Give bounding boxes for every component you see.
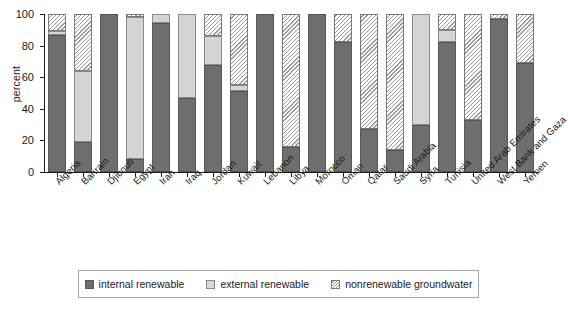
y-axis-tick-labels: 100806040200 <box>8 0 34 309</box>
nonrenewable-groundwater-segment[interactable] <box>516 14 535 63</box>
x-tick-mark <box>161 173 162 177</box>
bar-group[interactable] <box>282 14 301 172</box>
stacked-bar[interactable] <box>204 14 223 172</box>
internal-renewable-segment[interactable] <box>204 65 223 172</box>
legend-item-label: nonrenewable groundwater <box>345 278 472 290</box>
external-renewable-segment[interactable] <box>230 85 249 91</box>
x-tick-mark <box>57 173 58 177</box>
internal-renewable-segment[interactable] <box>308 14 327 172</box>
stacked-bar[interactable] <box>48 14 67 172</box>
x-tick-mark <box>265 173 266 177</box>
x-tick-mark <box>499 173 500 177</box>
stacked-bar[interactable] <box>256 14 275 172</box>
bar-group[interactable] <box>360 14 379 172</box>
internal-renewable-segment[interactable] <box>100 14 119 172</box>
external-renewable-segment[interactable] <box>152 14 171 23</box>
chart-legend: internal renewableexternal renewablenonr… <box>78 270 479 298</box>
stacked-bar[interactable] <box>308 14 327 172</box>
nonrenewable-groundwater-segment[interactable] <box>490 14 509 19</box>
nonrenewable-groundwater-segment[interactable] <box>126 14 145 17</box>
x-tick-mark <box>395 173 396 177</box>
y-tick-label: 60 <box>8 72 34 83</box>
stacked-bar[interactable] <box>360 14 379 172</box>
y-tick-mark <box>40 140 44 141</box>
stacked-bar[interactable] <box>178 14 197 172</box>
y-tick-label: 0 <box>8 167 34 178</box>
nonrenewable-groundwater-segment[interactable] <box>74 14 93 71</box>
x-tick-mark <box>317 173 318 177</box>
internal-renewable-segment[interactable] <box>48 35 67 172</box>
stacked-bar[interactable] <box>334 14 353 172</box>
external-renewable-segment[interactable] <box>204 36 223 64</box>
bar-group[interactable] <box>100 14 119 172</box>
nonrenewable-groundwater-segment[interactable] <box>438 14 457 30</box>
nonrenewable-groundwater-segment[interactable] <box>230 14 249 85</box>
internal-renewable-segment[interactable] <box>152 23 171 172</box>
stacked-bar[interactable] <box>282 14 301 172</box>
y-tick-mark <box>40 46 44 47</box>
stacked-bar[interactable] <box>386 14 405 172</box>
stacked-bar[interactable] <box>230 14 249 172</box>
stacked-bar[interactable] <box>74 14 93 172</box>
y-tick-mark <box>40 77 44 78</box>
internal-renewable-segment[interactable] <box>256 14 275 172</box>
external-renewable-segment[interactable] <box>412 14 431 125</box>
external-renewable-segment[interactable] <box>438 30 457 43</box>
legend-item-label: internal renewable <box>99 278 185 290</box>
x-tick-mark <box>291 173 292 177</box>
x-tick-mark <box>421 173 422 177</box>
legend-item[interactable]: external renewable <box>206 278 309 290</box>
bar-group[interactable] <box>178 14 197 172</box>
bar-group[interactable] <box>386 14 405 172</box>
nonrenewable-groundwater-segment[interactable] <box>464 14 483 120</box>
x-tick-mark <box>83 173 84 177</box>
internal-renewable-segment[interactable] <box>438 42 457 172</box>
external-renewable-segment[interactable] <box>178 14 197 98</box>
external-renewable-segment[interactable] <box>48 31 67 34</box>
y-tick-label: 40 <box>8 103 34 114</box>
x-tick-mark <box>525 173 526 177</box>
bar-group[interactable] <box>308 14 327 172</box>
nonrenewable-groundwater-segment[interactable] <box>282 14 301 147</box>
nonrenewable-groundwater-segment[interactable] <box>334 14 353 42</box>
y-tick-label: 100 <box>8 9 34 20</box>
legend-item[interactable]: internal renewable <box>85 278 185 290</box>
x-tick-mark <box>239 173 240 177</box>
x-tick-mark <box>213 173 214 177</box>
nonrenewable-groundwater-segment[interactable] <box>204 14 223 36</box>
bar-group[interactable] <box>126 14 145 172</box>
nonrenewable-groundwater-segment[interactable] <box>48 14 67 31</box>
internal-renewable-segment[interactable] <box>334 42 353 172</box>
bar-group[interactable] <box>152 14 171 172</box>
stacked-bar[interactable] <box>152 14 171 172</box>
legend-item-label: external renewable <box>220 278 309 290</box>
bar-group[interactable] <box>334 14 353 172</box>
bar-group[interactable] <box>438 14 457 172</box>
y-tick-mark <box>40 14 44 15</box>
bar-group[interactable] <box>204 14 223 172</box>
external-renewable-segment[interactable] <box>126 17 145 159</box>
external-renewable-segment[interactable] <box>74 71 93 142</box>
stacked-bar[interactable] <box>438 14 457 172</box>
stacked-bar[interactable] <box>464 14 483 172</box>
bar-group[interactable] <box>48 14 67 172</box>
bar-group[interactable] <box>464 14 483 172</box>
legend-item[interactable]: nonrenewable groundwater <box>331 278 472 290</box>
bar-group[interactable] <box>230 14 249 172</box>
stacked-bar[interactable] <box>126 14 145 172</box>
nonrenewable-groundwater-segment[interactable] <box>360 14 379 129</box>
nonrenewable-groundwater-segment[interactable] <box>386 14 405 150</box>
x-tick-mark <box>343 173 344 177</box>
stacked-bar[interactable] <box>100 14 119 172</box>
hatched-swatch-icon <box>331 280 340 289</box>
bar-group[interactable] <box>74 14 93 172</box>
x-tick-mark <box>109 173 110 177</box>
internal-renewable-segment[interactable] <box>178 98 197 172</box>
solid-dark-swatch-icon <box>85 280 94 289</box>
x-tick-mark <box>447 173 448 177</box>
bar-group[interactable] <box>256 14 275 172</box>
y-tick-label: 80 <box>8 40 34 51</box>
x-tick-mark <box>187 173 188 177</box>
plot-area <box>44 14 538 172</box>
